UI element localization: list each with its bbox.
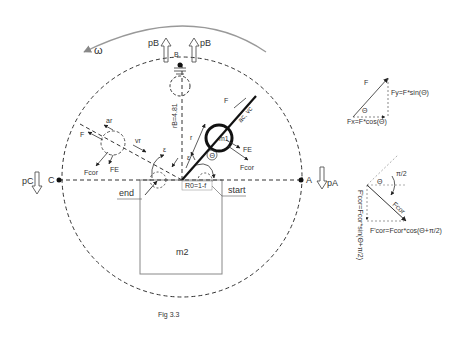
start-label: start xyxy=(228,185,246,195)
inset-Fy-label: Fy=F*sin(Θ) xyxy=(391,89,429,97)
Fcor-arrow-left xyxy=(96,152,108,166)
radial-arrow-down xyxy=(172,158,178,167)
inset-Fx-label: Fx=F*cos(Θ) xyxy=(347,118,387,126)
Fcor-label-m1: Fcor xyxy=(240,164,255,171)
vr-label: vr xyxy=(135,137,142,144)
ghost-m1-at-B xyxy=(170,76,190,96)
inset2-pi2-label: π/2 xyxy=(396,170,407,177)
inset2-Fcor-x-label: F'cor=Fcor*cos(Θ+π/2) xyxy=(370,227,442,235)
figure-caption: Fig 3.3 xyxy=(158,311,180,319)
inset-force-decomposition: F Θ Fy=F*sin(Θ) Fx=F*cos(Θ) xyxy=(347,78,429,126)
pressure-arrow-pB-right xyxy=(189,38,199,62)
point-A xyxy=(299,178,304,183)
epsilon-label-rod: ε xyxy=(187,154,190,161)
ar-arrow xyxy=(104,125,113,130)
epsilon-arc-left xyxy=(152,155,164,178)
point-B-label: B xyxy=(174,51,179,58)
ar-label: ar xyxy=(106,117,113,124)
theta-arc xyxy=(196,164,214,178)
F-arrow xyxy=(234,98,246,108)
r-arrow xyxy=(186,124,205,168)
inset2-Fcor-label: Fcor xyxy=(391,201,407,216)
F-arrow-left xyxy=(88,132,103,140)
point-C-label: C xyxy=(48,175,55,185)
inset-coriolis-decomposition: Θ π/2 Fcor F'cor=Fcor*cos(Θ+π/2) F'cor=F… xyxy=(356,155,442,260)
inset2-Fcor-y-label: F'cor=Fcor*sin(Θ+π/2) xyxy=(356,190,364,260)
epsilon-label-left: ε xyxy=(163,146,166,153)
inset-F-label: F xyxy=(364,79,368,86)
r0-label: R0=1-f xyxy=(185,182,206,189)
inset-theta-label: Θ xyxy=(362,107,368,114)
theta-label-main: Θ xyxy=(210,152,216,159)
physics-diagram: ω m2 A C B pB pB pC pA rB=4.81 m1 r F xyxy=(0,0,462,337)
Fe-arrow-left xyxy=(109,155,113,164)
F-label-main: F xyxy=(224,97,228,104)
point-A-label: A xyxy=(306,175,312,185)
pressure-arrow-pA xyxy=(317,167,327,189)
Fe-label-m1: FE xyxy=(243,146,252,153)
vr-arrow xyxy=(133,145,146,152)
pA-label: pA xyxy=(327,178,338,188)
end-label: end xyxy=(119,188,134,198)
Fe-label-left: FE xyxy=(110,166,119,173)
spring-at-B xyxy=(174,68,186,74)
inset2-theta-label: Θ xyxy=(377,178,383,185)
ghost-m1-left xyxy=(101,131,125,155)
pC-label: pC xyxy=(22,176,34,186)
point-B xyxy=(178,63,183,68)
m2-label: m2 xyxy=(176,247,189,257)
pB-label-left: pB xyxy=(148,38,159,48)
mass-m2-box xyxy=(140,180,222,274)
F-label-left: F xyxy=(80,131,84,138)
radius-rB-label: rB=4.81 xyxy=(171,103,178,128)
pB-label-right: pB xyxy=(200,38,211,48)
omega-label: ω xyxy=(94,44,103,56)
r-label: r xyxy=(190,134,193,141)
point-C xyxy=(57,178,62,183)
Fcor-label-left: Fcor xyxy=(84,169,99,176)
